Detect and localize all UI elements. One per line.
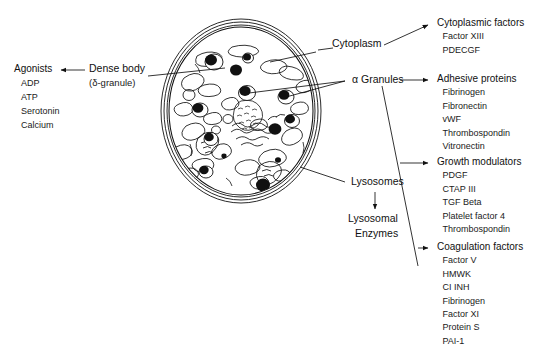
lysosomal-enzymes-line2: Enzymes <box>355 228 398 239</box>
cytoplasm-label: Cytoplasm <box>332 38 382 49</box>
coagulation-factors-item: HMWK <box>443 269 524 279</box>
adhesive-proteins-item: Fibronectin <box>443 101 517 111</box>
leader-lysosomes <box>300 167 345 182</box>
adhesive-proteins-item: Fibrinogen <box>443 87 517 97</box>
agonists-header: Agonists <box>14 63 60 74</box>
adhesive-proteins-block: Adhesive proteins Fibrinogen Fibronectin… <box>437 73 517 151</box>
agonists-block: Agonists ADP ATP Serotonin Calcium <box>14 63 60 130</box>
lysosomes-label: Lysosomes <box>351 176 404 187</box>
coagulation-factors-item: PAI-1 <box>443 336 524 346</box>
cytoplasmic-factors-block: Cytoplasmic factors Factor XIII PDECGF <box>437 17 524 55</box>
coagulation-factors-item: Factor V <box>443 255 524 265</box>
agonists-item: ADP <box>21 78 60 88</box>
adhesive-proteins-item: Vitronectin <box>443 141 517 151</box>
growth-modulators-item: Thrombospondin <box>443 224 522 234</box>
leader-dense-body <box>148 68 225 76</box>
leader-alpha-2 <box>249 81 345 93</box>
leader-cytoplasm-inner <box>270 52 316 62</box>
agonists-item: Serotonin <box>21 106 60 116</box>
growth-modulators-item: Platelet factor 4 <box>443 211 522 221</box>
growth-modulators-item: TGF Beta <box>443 197 522 207</box>
dense-body-sublabel: (δ-granule) <box>89 78 135 88</box>
agonists-item: Calcium <box>21 120 60 130</box>
coagulation-factors-item: CI INH <box>443 282 524 292</box>
adhesive-proteins-item: Thrombospondin <box>443 128 517 138</box>
coagulation-factors-item: Factor XI <box>443 309 524 319</box>
coagulation-factors-block: Coagulation factors Factor V HMWK CI INH… <box>437 241 523 346</box>
growth-modulators-item: PDGF <box>443 170 522 180</box>
agonists-item: ATP <box>21 92 60 102</box>
leader-alpha-1 <box>286 81 345 97</box>
dense-body-label: Dense body <box>89 63 145 74</box>
lysosomal-enzymes-line1: Lysosomal <box>348 213 398 224</box>
coagulation-factors-item: Fibrinogen <box>443 296 524 306</box>
cytoplasmic-factors-item: Factor XIII <box>443 31 525 41</box>
coagulation-factors-item: Protein S <box>443 322 524 332</box>
coagulation-factors-header: Coagulation factors <box>437 241 523 252</box>
arrow-cytoplasm-to-factors <box>384 25 428 45</box>
growth-modulators-item: CTAP III <box>443 184 522 194</box>
cytoplasmic-factors-item: PDECGF <box>443 45 525 55</box>
leader-cytoplasm-in <box>318 48 333 50</box>
alpha-granules-label: α Granules <box>352 74 404 85</box>
growth-modulators-block: Growth modulators PDGF CTAP III TGF Beta… <box>437 156 521 234</box>
cytoplasmic-factors-header: Cytoplasmic factors <box>437 17 524 28</box>
diagram-canvas: Dense body (δ-granule) Agonists ADP ATP … <box>0 0 543 358</box>
adhesive-proteins-item: vWF <box>443 114 517 124</box>
growth-modulators-header: Growth modulators <box>437 156 521 167</box>
adhesive-proteins-header: Adhesive proteins <box>437 73 517 84</box>
